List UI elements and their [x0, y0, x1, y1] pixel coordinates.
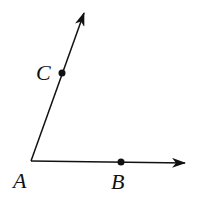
label-a: A	[11, 168, 27, 193]
angle-diagram: C A B	[0, 0, 198, 199]
ray-ac	[31, 13, 84, 161]
point-b	[118, 159, 125, 166]
point-c	[59, 70, 66, 77]
label-c: C	[36, 60, 51, 85]
label-b: B	[111, 169, 124, 194]
ray-ab	[31, 161, 185, 163]
